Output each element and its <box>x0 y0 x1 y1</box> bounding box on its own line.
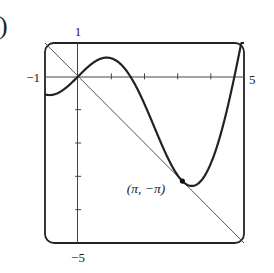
intersection-point <box>180 178 185 183</box>
curve-x-cos-x <box>45 43 244 186</box>
graph: ) 1 −1 5 −5 (π, −π) <box>0 0 274 273</box>
y-axis-ticks <box>75 110 81 210</box>
x-max-label: 5 <box>249 72 256 87</box>
part-marker: ) <box>0 11 8 40</box>
x-min-label: −1 <box>26 70 40 85</box>
x-axis-ticks <box>111 73 210 79</box>
y-min-label: −5 <box>71 250 85 265</box>
y-max-label: 1 <box>75 24 82 39</box>
point-label: (π, −π) <box>127 181 166 196</box>
line-y-equals-neg-x <box>45 43 244 243</box>
